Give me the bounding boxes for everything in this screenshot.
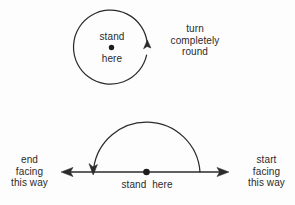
diagram-page: stand here turn completely round end fac… — [0, 0, 295, 205]
end-facing-this-way-label: end facing this way — [2, 154, 57, 189]
top-here-label: here — [83, 53, 141, 65]
half-turn-arrowhead — [89, 164, 97, 175]
start-facing-this-way-label: start facing this way — [238, 154, 295, 189]
top-diagram-group — [73, 10, 150, 84]
turn-completely-round-label: turn completely round — [155, 23, 235, 58]
bottom-diagram-group — [61, 122, 229, 177]
top-person-dot — [109, 45, 114, 50]
bottom-stand-here-label: stand here — [104, 179, 190, 191]
bottom-person-dot — [143, 169, 150, 176]
half-turn-arc — [94, 122, 200, 172]
full-turn-arrowhead — [144, 40, 151, 49]
top-stand-label: stand — [83, 31, 141, 43]
